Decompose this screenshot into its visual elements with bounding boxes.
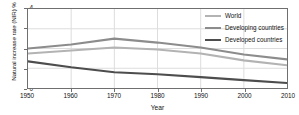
- x-axis-label: Year: [27, 104, 288, 111]
- x-tick-label: 2000: [228, 93, 262, 99]
- legend-label: Developing countries: [225, 23, 284, 33]
- x-tick-mark: [114, 89, 115, 92]
- y-axis-label-text: Natural increase rate (NIR) %: [10, 0, 17, 87]
- y-tick-mark: [24, 89, 27, 90]
- legend-label: Developed countries: [225, 35, 282, 45]
- legend-swatch-icon: [205, 15, 221, 17]
- x-tick-label: 1980: [141, 93, 175, 99]
- x-tick-mark: [201, 89, 202, 92]
- legend-swatch-icon: [205, 39, 221, 41]
- x-tick-mark: [158, 89, 159, 92]
- x-tick-label: 1960: [54, 93, 88, 99]
- legend-label: World: [225, 11, 241, 21]
- plot-canvas: [28, 9, 287, 88]
- x-tick-label: 1990: [184, 93, 218, 99]
- legend-swatch-icon: [205, 27, 221, 29]
- x-tick-label: 1950: [10, 93, 44, 99]
- x-tick-mark: [71, 89, 72, 92]
- chart-figure: Natural increase rate (NIR) % 01234 1950…: [0, 0, 299, 115]
- x-tick-mark: [245, 89, 246, 92]
- x-tick-label: 2010: [271, 93, 299, 99]
- plot-area: [27, 8, 288, 89]
- x-tick-label: 1970: [97, 93, 131, 99]
